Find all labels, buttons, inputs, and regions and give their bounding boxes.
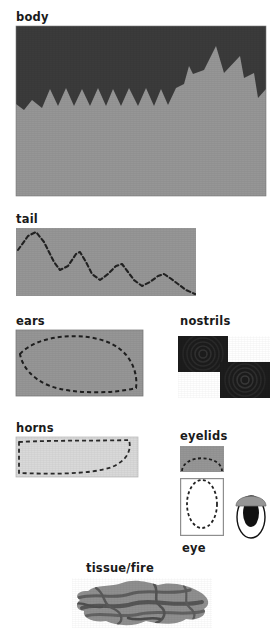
eye-box-frame	[181, 479, 224, 536]
nostrils-artwork	[178, 336, 270, 398]
panel-eye-icon[interactable]	[232, 489, 270, 541]
eye-box-artwork	[180, 478, 224, 536]
tail-background	[16, 228, 196, 296]
panel-body[interactable]	[16, 26, 266, 196]
panel-nostrils[interactable]	[178, 336, 270, 398]
eye-icon	[232, 489, 270, 541]
tail-artwork	[16, 228, 196, 296]
label-body: body	[16, 12, 49, 24]
horns-background	[16, 437, 138, 477]
label-eyelids: eyelids	[180, 431, 227, 443]
eye-upper-lid	[236, 496, 266, 506]
horns-artwork	[16, 437, 138, 477]
label-nostrils: nostrils	[180, 316, 230, 328]
label-tissue-fire: tissue/fire	[86, 563, 154, 575]
ears-background	[16, 330, 143, 396]
eyelids-background	[180, 446, 224, 472]
panel-horns[interactable]	[16, 437, 138, 477]
panel-tail[interactable]	[16, 228, 196, 296]
label-ears: ears	[16, 316, 45, 328]
label-horns: horns	[16, 423, 54, 435]
panel-eye-box[interactable]	[180, 478, 224, 536]
panel-tissue-fire[interactable]	[72, 578, 212, 628]
eyelids-artwork	[180, 446, 224, 472]
label-eye: eye	[182, 543, 206, 555]
ears-artwork	[16, 330, 143, 396]
label-tail: tail	[16, 214, 38, 226]
panel-eyelids[interactable]	[180, 446, 224, 472]
body-artwork	[16, 26, 266, 196]
panel-ears[interactable]	[16, 330, 143, 396]
sprite-sheet-canvas: body tail ears nostrils	[0, 0, 280, 632]
tissue-fire-artwork	[72, 578, 212, 628]
